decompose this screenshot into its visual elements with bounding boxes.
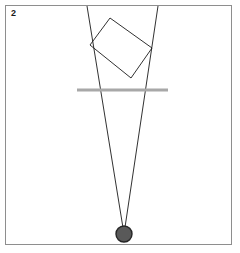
left-ray-line <box>87 6 124 234</box>
diagram-canvas <box>0 0 240 253</box>
figure-panel: 2 <box>0 0 240 253</box>
source-disc <box>116 226 132 242</box>
panel-label: 2 <box>11 9 16 18</box>
ray-group <box>87 6 158 234</box>
tilted-rectangle <box>90 18 152 78</box>
